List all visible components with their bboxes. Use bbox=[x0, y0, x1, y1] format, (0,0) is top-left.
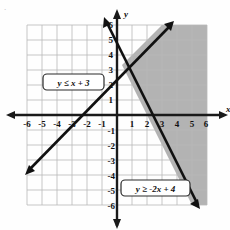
x-tick-1: 1 bbox=[130, 119, 135, 129]
inequality-label-2-text: y ≥ -2x + 4 bbox=[135, 184, 176, 194]
y-tick--5: -5 bbox=[108, 186, 116, 196]
y-tick-6: 6 bbox=[109, 20, 114, 30]
x-tick-4: 4 bbox=[175, 119, 180, 129]
inequality-label-2: y ≥ -2x + 4 bbox=[121, 180, 190, 196]
y-tick-3: 3 bbox=[109, 65, 114, 75]
inequality-label-1-text: y ≤ x + 3 bbox=[56, 78, 90, 88]
x-tick--1: -1 bbox=[98, 119, 106, 129]
graph-figure: · bbox=[0, 0, 230, 230]
y-tick-5: 5 bbox=[109, 35, 114, 45]
coordinate-plane-svg: · bbox=[0, 0, 230, 230]
x-tick-3: 3 bbox=[160, 119, 165, 129]
y-tick--3: -3 bbox=[108, 156, 116, 166]
x-tick--3: -3 bbox=[68, 119, 76, 129]
inequality-label-1: y ≤ x + 3 bbox=[43, 74, 104, 90]
x-tick-5: 5 bbox=[190, 119, 195, 129]
y-tick-2: 2 bbox=[109, 80, 114, 90]
x-tick--5: -5 bbox=[38, 119, 46, 129]
x-tick-6: 6 bbox=[204, 119, 209, 129]
y-tick-1: 1 bbox=[109, 95, 114, 105]
y-tick-4: 4 bbox=[109, 50, 114, 60]
y-tick--2: -2 bbox=[108, 141, 116, 151]
y-axis-label: y bbox=[123, 9, 129, 19]
y-tick--1: -1 bbox=[108, 126, 116, 136]
x-tick--2: -2 bbox=[83, 119, 91, 129]
x-tick--6: -6 bbox=[23, 119, 31, 129]
y-tick--4: -4 bbox=[108, 171, 116, 181]
x-axis-label: x bbox=[225, 104, 230, 114]
x-tick-2: 2 bbox=[145, 119, 150, 129]
x-tick--4: -4 bbox=[53, 119, 61, 129]
y-tick--6: -6 bbox=[108, 201, 116, 211]
corner-speck-icon: · bbox=[4, 6, 6, 14]
